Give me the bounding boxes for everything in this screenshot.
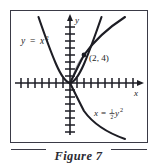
x-axis-label: x [133, 88, 138, 98]
y-axis-ticks-negative [65, 90, 75, 132]
y-axis-label: y [74, 15, 79, 25]
curve-label-parabola-right-var: y [114, 108, 119, 118]
y-axis-arrow [67, 14, 73, 21]
curve-label-parabola-right-eq: = [101, 108, 106, 118]
figure-container: x y y = x 2 x = 1 2 y 2 (2, 4) [0, 0, 157, 166]
x-axis-ticks-negative [21, 78, 63, 88]
figure-caption-wrap: Figure 7 [0, 146, 157, 164]
curve-label-parabola-up-var: x [39, 36, 45, 46]
curve-label-parabola-right-lhs: x [93, 108, 98, 118]
curve-label-parabola-up-lhs: y [20, 36, 26, 46]
curve-label-parabola-right-denominator: 2 [111, 114, 114, 120]
intersection-point-marker [82, 53, 87, 58]
curve-label-parabola-up-exponent: 2 [46, 34, 49, 41]
figure-caption: Figure 7 [55, 149, 103, 163]
plot-frame: x y y = x 2 x = 1 2 y 2 (2, 4) [10, 10, 148, 143]
point-annotation-label: (2, 4) [89, 53, 109, 63]
x-axis-arrow [137, 80, 144, 86]
curve-label-parabola-right-numerator: 1 [111, 108, 114, 114]
coordinate-plot: x y y = x 2 x = 1 2 y 2 (2, 4) [11, 11, 147, 142]
curve-label-parabola-right-exponent: 2 [120, 106, 123, 113]
curve-label-parabola-up-eq: = [30, 36, 35, 46]
curve-label-parabola-right: x = 1 2 y 2 [93, 106, 123, 121]
